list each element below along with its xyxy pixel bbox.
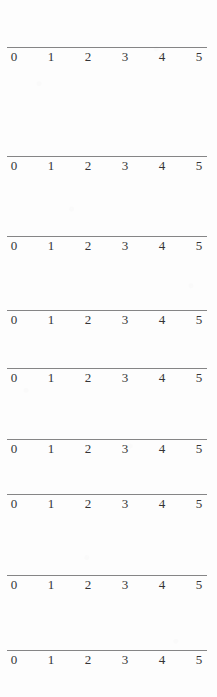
axis-tick-label-5: 5 [190, 157, 208, 174]
number-line-9: 012345 [0, 650, 217, 672]
number-line-5: 012345 [0, 368, 217, 390]
axis-tick-label-5: 5 [190, 369, 208, 386]
axis-tick-labels: 012345 [0, 157, 217, 177]
axis-tick-label-0: 0 [5, 48, 23, 65]
axis-tick-label-4: 4 [153, 576, 171, 593]
axis-tick-label-0: 0 [5, 311, 23, 328]
axis-tick-label-0: 0 [5, 440, 23, 457]
axis-tick-label-5: 5 [190, 576, 208, 593]
axis-tick-label-1: 1 [42, 651, 60, 668]
axis-tick-label-1: 1 [42, 440, 60, 457]
axis-tick-labels: 012345 [0, 48, 217, 68]
axis-tick-label-5: 5 [190, 311, 208, 328]
axis-tick-label-2: 2 [79, 237, 97, 254]
axis-tick-label-4: 4 [153, 495, 171, 512]
axis-tick-label-1: 1 [42, 576, 60, 593]
axis-tick-labels: 012345 [0, 237, 217, 257]
axis-tick-label-3: 3 [116, 157, 134, 174]
axis-tick-label-1: 1 [42, 495, 60, 512]
axis-tick-label-3: 3 [116, 576, 134, 593]
axis-tick-labels: 012345 [0, 369, 217, 389]
axis-tick-label-1: 1 [42, 237, 60, 254]
axis-tick-label-5: 5 [190, 440, 208, 457]
axis-tick-label-1: 1 [42, 311, 60, 328]
axis-tick-labels: 012345 [0, 311, 217, 331]
axis-tick-label-3: 3 [116, 237, 134, 254]
axis-tick-labels: 012345 [0, 440, 217, 460]
axis-tick-label-4: 4 [153, 440, 171, 457]
axis-tick-label-0: 0 [5, 576, 23, 593]
axis-tick-label-4: 4 [153, 651, 171, 668]
axis-tick-label-3: 3 [116, 48, 134, 65]
axis-tick-labels: 012345 [0, 495, 217, 515]
axis-tick-label-3: 3 [116, 311, 134, 328]
axis-tick-label-4: 4 [153, 237, 171, 254]
axis-tick-labels: 012345 [0, 651, 217, 671]
axis-tick-label-4: 4 [153, 369, 171, 386]
axis-tick-label-4: 4 [153, 48, 171, 65]
number-line-1: 012345 [0, 47, 217, 69]
axis-tick-label-5: 5 [190, 237, 208, 254]
axis-tick-label-5: 5 [190, 651, 208, 668]
axis-tick-label-2: 2 [79, 369, 97, 386]
number-line-2: 012345 [0, 156, 217, 178]
number-line-7: 012345 [0, 494, 217, 516]
axis-tick-label-2: 2 [79, 495, 97, 512]
number-line-4: 012345 [0, 310, 217, 332]
axis-tick-label-2: 2 [79, 157, 97, 174]
axis-tick-label-3: 3 [116, 651, 134, 668]
axis-tick-label-2: 2 [79, 311, 97, 328]
number-line-3: 012345 [0, 236, 217, 258]
axis-tick-label-0: 0 [5, 495, 23, 512]
axis-tick-label-3: 3 [116, 369, 134, 386]
number-line-8: 012345 [0, 575, 217, 597]
axis-tick-label-0: 0 [5, 157, 23, 174]
axis-tick-label-3: 3 [116, 440, 134, 457]
axis-tick-label-0: 0 [5, 369, 23, 386]
axis-tick-labels: 012345 [0, 576, 217, 596]
axis-tick-label-0: 0 [5, 651, 23, 668]
axis-tick-label-2: 2 [79, 48, 97, 65]
axis-tick-label-3: 3 [116, 495, 134, 512]
axis-tick-label-1: 1 [42, 157, 60, 174]
axis-tick-label-4: 4 [153, 157, 171, 174]
number-line-6: 012345 [0, 439, 217, 461]
axis-tick-label-2: 2 [79, 440, 97, 457]
axis-tick-label-5: 5 [190, 495, 208, 512]
axis-tick-label-1: 1 [42, 48, 60, 65]
axis-tick-label-4: 4 [153, 311, 171, 328]
axis-tick-label-2: 2 [79, 651, 97, 668]
axis-tick-label-1: 1 [42, 369, 60, 386]
axis-tick-label-5: 5 [190, 48, 208, 65]
axis-tick-label-2: 2 [79, 576, 97, 593]
axis-tick-label-0: 0 [5, 237, 23, 254]
